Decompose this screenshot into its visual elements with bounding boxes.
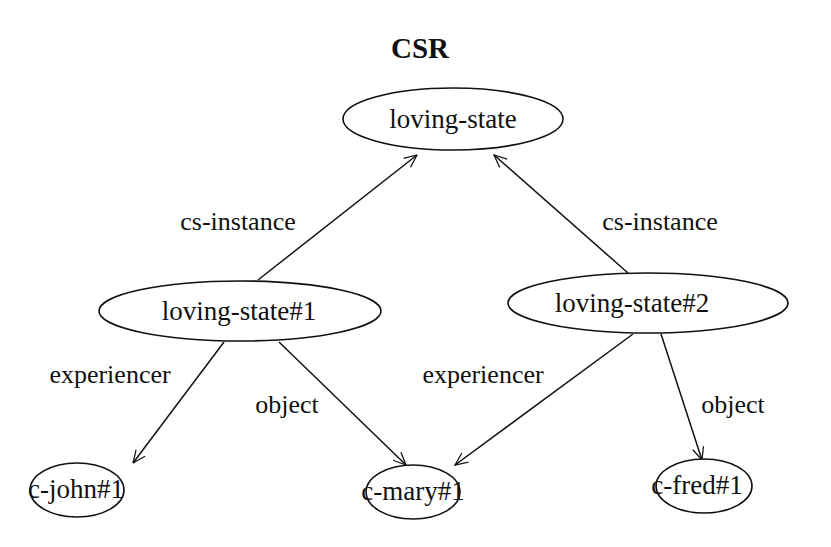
edge-experiencer-1: experiencer	[49, 342, 224, 463]
edge-experiencer-2: experiencer	[422, 334, 633, 465]
node-loving-state: loving-state	[343, 88, 563, 150]
node-c-fred-1: c-fred#1	[651, 459, 752, 513]
edge-label: cs-instance	[602, 207, 718, 236]
edge-label: object	[701, 390, 765, 419]
edge-object-1: object	[255, 342, 406, 465]
node-label: loving-state#1	[162, 296, 316, 326]
edge-object-2: object	[661, 334, 766, 460]
node-c-john-1: c-john#1	[28, 463, 124, 517]
node-label: loving-state#2	[555, 288, 709, 318]
edge-arrow	[455, 334, 633, 465]
edge-cs-instance-1: cs-instance	[180, 155, 417, 280]
node-loving-state-1: loving-state#1	[99, 281, 381, 341]
diagram-title: CSR	[391, 32, 450, 64]
node-label: c-mary#1	[361, 476, 464, 506]
edge-label: experiencer	[422, 360, 544, 389]
edge-label: cs-instance	[180, 207, 296, 236]
edge-label: object	[255, 390, 319, 419]
edge-arrow	[661, 334, 702, 460]
node-label: c-john#1	[28, 474, 124, 504]
node-label: c-fred#1	[651, 470, 742, 500]
node-c-mary-1: c-mary#1	[361, 465, 464, 519]
csr-diagram: CSR cs-instance cs-instance experiencer …	[0, 0, 831, 547]
edge-cs-instance-2: cs-instance	[494, 155, 718, 273]
node-loving-state-2: loving-state#2	[508, 273, 788, 333]
edge-label: experiencer	[49, 360, 171, 389]
node-label: loving-state	[389, 104, 516, 134]
